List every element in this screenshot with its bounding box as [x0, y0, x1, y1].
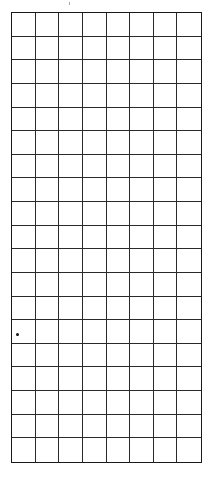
- grid-cell: [12, 13, 36, 37]
- grid-cell: [83, 438, 107, 462]
- grid-cell: [12, 178, 36, 202]
- grid-cell: [107, 60, 131, 84]
- grid-cell: [177, 367, 201, 391]
- grid-cell: [130, 131, 154, 155]
- graph-paper-grid: [11, 12, 202, 463]
- grid-cell: [36, 320, 60, 344]
- grid-cell: [130, 297, 154, 321]
- grid-cell: [177, 297, 201, 321]
- grid-cell: [36, 438, 60, 462]
- grid-cell: [130, 155, 154, 179]
- grid-cell: [130, 226, 154, 250]
- grid-cell: [107, 297, 131, 321]
- grid-cell: [59, 13, 83, 37]
- grid-cell: [36, 178, 60, 202]
- grid-cell: [107, 155, 131, 179]
- grid-cell: [59, 273, 83, 297]
- grid-cell: [154, 273, 178, 297]
- grid-cell: [59, 155, 83, 179]
- grid-cell: [83, 37, 107, 61]
- grid-cell: [154, 438, 178, 462]
- grid-cell: [107, 273, 131, 297]
- grid-cell: [130, 202, 154, 226]
- grid-cell: [59, 415, 83, 439]
- grid-cell: [107, 37, 131, 61]
- grid-cell: [130, 320, 154, 344]
- grid-cell: [12, 155, 36, 179]
- grid-cell: [12, 415, 36, 439]
- grid-cell: [83, 202, 107, 226]
- grid-cell: [36, 13, 60, 37]
- grid-cell: [83, 249, 107, 273]
- grid-cell: [59, 438, 83, 462]
- grid-cell: [130, 344, 154, 368]
- grid-cell: [107, 226, 131, 250]
- grid-cell: [36, 226, 60, 250]
- grid-cell: [107, 367, 131, 391]
- grid-cell: [154, 37, 178, 61]
- grid-cell: [177, 391, 201, 415]
- grid-cell: [177, 249, 201, 273]
- grid-cell: [154, 249, 178, 273]
- grid-cell: [12, 202, 36, 226]
- grid-cell: [130, 60, 154, 84]
- grid-cell: [83, 226, 107, 250]
- grid-cell: [177, 415, 201, 439]
- grid-cell: [59, 108, 83, 132]
- grid-cell: [36, 155, 60, 179]
- grid-cell: [36, 415, 60, 439]
- grid-cell: [59, 367, 83, 391]
- grid-cell: [59, 226, 83, 250]
- grid-cell: [177, 131, 201, 155]
- grid-cell: [130, 13, 154, 37]
- grid-cell: [107, 84, 131, 108]
- grid-cell: [130, 84, 154, 108]
- grid-cell: [177, 320, 201, 344]
- grid-cell: [59, 37, 83, 61]
- grid-cell: [154, 108, 178, 132]
- grid-cell: [107, 249, 131, 273]
- grid-cell: [59, 320, 83, 344]
- scan-speck: [69, 2, 70, 5]
- grid-cell: [130, 391, 154, 415]
- grid-cell: [83, 155, 107, 179]
- grid-cell: [154, 13, 178, 37]
- grid-cell: [154, 344, 178, 368]
- grid-cell: [107, 391, 131, 415]
- grid-cell: [107, 178, 131, 202]
- grid-cell: [130, 37, 154, 61]
- grid-cell: [83, 320, 107, 344]
- grid-cell: [12, 391, 36, 415]
- grid-cell: [12, 273, 36, 297]
- grid-cell: [130, 108, 154, 132]
- grid-cell: [83, 13, 107, 37]
- grid-cell: [36, 202, 60, 226]
- grid-cell: [154, 226, 178, 250]
- grid-cell: [59, 297, 83, 321]
- grid-cell: [12, 344, 36, 368]
- grid-cell: [177, 202, 201, 226]
- grid-cell: [177, 273, 201, 297]
- grid-cell: [83, 131, 107, 155]
- grid-cell: [107, 13, 131, 37]
- grid-cell: [12, 249, 36, 273]
- grid-cell: [177, 155, 201, 179]
- grid-cell: [12, 60, 36, 84]
- grid-cell: [177, 178, 201, 202]
- grid-cell: [154, 60, 178, 84]
- grid-cell: [36, 84, 60, 108]
- grid-cell: [130, 178, 154, 202]
- grid-cell: [83, 84, 107, 108]
- grid-cell: [36, 60, 60, 84]
- grid-cell: [130, 273, 154, 297]
- grid-cell: [36, 131, 60, 155]
- grid-cell: [36, 391, 60, 415]
- grid-cell: [107, 415, 131, 439]
- grid-cell: [36, 273, 60, 297]
- grid-cell: [36, 297, 60, 321]
- grid-cell: [154, 155, 178, 179]
- grid-cell: [59, 84, 83, 108]
- grid-cell: [154, 297, 178, 321]
- grid-cell: [12, 37, 36, 61]
- grid-cell: [83, 60, 107, 84]
